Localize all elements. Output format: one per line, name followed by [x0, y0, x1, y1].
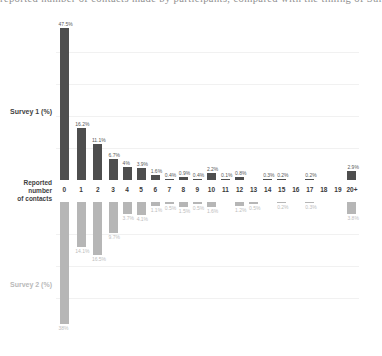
survey1-value-label: 0.4%	[165, 172, 176, 178]
x-tick-label: 13	[247, 180, 261, 198]
bar-column-5: 3.9%54.1%	[134, 18, 148, 342]
survey1-bar	[347, 171, 356, 180]
survey2-value-label: 1.2%	[235, 207, 246, 213]
survey1-value-label: 0.8%	[235, 170, 246, 176]
survey2-bar	[137, 202, 146, 215]
bar-column-13: 130.5%	[247, 18, 261, 342]
survey1-value-label: 16.2%	[75, 121, 89, 127]
x-tick-label: 9	[190, 180, 204, 198]
bar-column-11: 0.1%11	[218, 18, 232, 342]
x-tick-label: 2	[89, 180, 106, 198]
survey2-bar	[109, 202, 118, 233]
x-tick-label: 0	[56, 180, 73, 198]
bar-column-12: 0.8%121.2%	[233, 18, 247, 342]
clipped-caption: reported number of contacts made by part…	[0, 0, 382, 7]
survey1-value-label: 3.9%	[137, 161, 148, 167]
bar-column-19: 19	[331, 18, 345, 342]
bar-column-7: 0.4%70.5%	[162, 18, 176, 342]
survey1-value-label: 1.6%	[151, 168, 162, 174]
survey2-bar	[165, 202, 174, 204]
survey2-bar	[123, 202, 132, 214]
bar-column-15: 0.2%150.2%	[275, 18, 289, 342]
x-tick-label: 18	[317, 180, 331, 198]
survey2-value-label: 16.5%	[92, 256, 106, 262]
bar-columns: 47.5%038%16.2%114.1%11.1%216.5%6.7%39.7%…	[56, 18, 359, 342]
x-tick-label: 14	[261, 180, 275, 198]
x-tick-label: 10	[204, 180, 218, 198]
x-axis-title-line2: of contacts	[0, 195, 52, 203]
survey2-value-label: 0.5%	[165, 205, 176, 211]
survey2-value-label: 14.1%	[75, 248, 89, 254]
survey2-value-label: 3.8%	[347, 215, 358, 221]
survey2-axis-label: Survey 2 (%)	[0, 281, 52, 290]
x-tick-label: 5	[134, 180, 148, 198]
bar-column-16: 16	[289, 18, 303, 342]
x-tick-label: 6	[148, 180, 162, 198]
bar-column-17: 0.2%170.3%	[303, 18, 317, 342]
survey1-value-label: 0.4%	[193, 172, 204, 178]
x-axis-title: Reported number of contacts	[0, 179, 52, 203]
x-tick-label: 12	[233, 180, 247, 198]
survey1-value-label: 2.2%	[207, 166, 218, 172]
x-tick-label: 11	[218, 180, 232, 198]
x-tick-label: 16	[289, 180, 303, 198]
survey2-value-label: 0.5%	[249, 205, 260, 211]
survey1-value-label: 11.1%	[92, 137, 106, 143]
bar-column-6: 1.6%61.1%	[148, 18, 162, 342]
bar-column-4: 4%43.7%	[120, 18, 134, 342]
bar-column-18: 18	[317, 18, 331, 342]
bar-column-0: 47.5%038%	[56, 18, 73, 342]
x-tick-label: 7	[162, 180, 176, 198]
x-axis-title-line1: Reported number	[0, 179, 52, 195]
survey2-bar	[60, 202, 69, 324]
x-tick-label: 8	[176, 180, 190, 198]
survey2-bar	[193, 202, 202, 204]
survey2-bar	[179, 202, 188, 207]
contact-survey-diverging-bar-chart: reported number of contacts made by part…	[0, 0, 382, 356]
survey1-value-label: 6.7%	[109, 152, 120, 158]
survey2-bar	[151, 202, 160, 206]
survey1-bar	[137, 168, 146, 180]
survey1-bar	[93, 144, 102, 180]
survey2-value-label: 1.5%	[179, 208, 190, 214]
survey2-value-label: 0.2%	[277, 204, 288, 210]
survey1-value-label: 0.1%	[221, 172, 232, 178]
survey2-value-label: 1.1%	[151, 207, 162, 213]
bar-column-8: 0.9%81.5%	[176, 18, 190, 342]
survey1-bar	[60, 28, 69, 180]
x-tick-label: 20+	[345, 180, 359, 198]
survey1-bar	[109, 159, 118, 180]
survey2-bar	[77, 202, 86, 247]
survey2-value-label: 0.5%	[193, 205, 204, 211]
survey2-bar	[93, 202, 102, 255]
bar-column-3: 6.7%39.7%	[106, 18, 120, 342]
x-tick-label: 1	[73, 180, 90, 198]
survey2-bar	[347, 202, 356, 214]
survey1-bar	[207, 173, 216, 180]
survey1-value-label: 0.9%	[179, 170, 190, 176]
survey2-value-label: 3.7%	[123, 215, 134, 221]
x-tick-label: 15	[275, 180, 289, 198]
survey1-value-label: 47.5%	[59, 21, 73, 27]
x-tick-label: 19	[331, 180, 345, 198]
survey2-value-label: 38%	[59, 325, 69, 331]
bar-column-20+: 2.9%20+3.8%	[345, 18, 359, 342]
x-tick-label: 17	[303, 180, 317, 198]
bar-column-10: 2.2%101.6%	[204, 18, 218, 342]
survey2-bar	[305, 202, 314, 203]
survey2-value-label: 4.1%	[137, 216, 148, 222]
survey1-value-label: 4%	[123, 160, 130, 166]
bar-column-14: 0.3%14	[261, 18, 275, 342]
survey2-bar	[235, 202, 244, 206]
survey1-value-label: 2.9%	[347, 164, 358, 170]
survey1-bar	[77, 128, 86, 180]
bar-column-1: 16.2%114.1%	[73, 18, 90, 342]
survey2-bar	[249, 202, 258, 204]
survey1-value-label: 0.3%	[263, 172, 274, 178]
survey1-value-label: 0.2%	[277, 172, 288, 178]
survey1-value-label: 0.2%	[305, 172, 316, 178]
survey1-bar	[123, 167, 132, 180]
clipped-caption-text: reported number of contacts made by part…	[0, 0, 382, 4]
survey2-value-label: 0.3%	[305, 204, 316, 210]
survey1-axis-label: Survey 1 (%)	[0, 108, 52, 117]
